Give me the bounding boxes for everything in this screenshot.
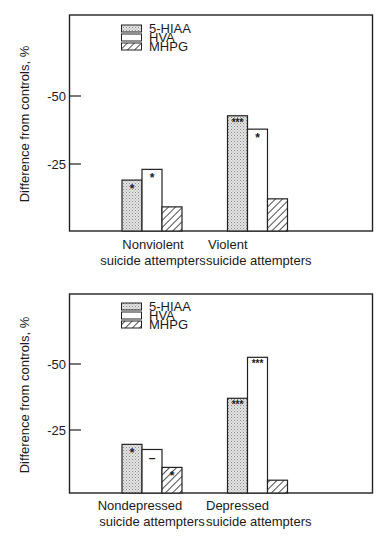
legend-label-mhpg: MHPG	[149, 317, 188, 332]
significance-marker: *	[170, 469, 175, 483]
chart-2-bars: *–*******	[122, 357, 288, 493]
bar-5hiaa	[228, 116, 248, 231]
chart-2-categories: Nondepressed suicide attempters Depresse…	[98, 498, 312, 529]
tick-label-minus-25: -25	[47, 157, 66, 172]
category-label-line1: Violent	[208, 237, 248, 252]
category-label-line1: Nonviolent	[122, 237, 184, 252]
category-label-line2: suicide attempters	[206, 253, 312, 268]
chart-2-legend: 5-HIAA HVA MHPG	[122, 299, 192, 332]
legend-swatch-5hiaa	[122, 25, 142, 32]
significance-marker: ***	[232, 399, 244, 410]
tick-label-minus-25: -25	[47, 423, 66, 438]
category-label-line2: suicide attempters	[99, 514, 205, 529]
legend-swatch-hva	[122, 34, 142, 41]
bar-mhpg	[162, 207, 182, 231]
chart-2-frame	[70, 294, 373, 493]
tick-label-minus-50: -50	[47, 357, 66, 372]
legend-swatch-mhpg	[122, 321, 142, 328]
chart-1-legend: 5-HIAA HVA MHPG	[122, 21, 192, 54]
legend-swatch-5hiaa	[122, 303, 142, 310]
legend-swatch-mhpg	[122, 43, 142, 50]
chart-1-bars: ******	[122, 116, 288, 231]
chart-2-ylabel: Difference from controls, %	[17, 316, 32, 473]
significance-marker: ***	[232, 117, 244, 128]
chart-2-yaxis: -50 -25	[47, 357, 81, 438]
chart-1-yaxis: -50 -25	[47, 89, 81, 172]
bar-hva	[248, 357, 268, 493]
chart-1-ylabel: Difference from controls, %	[17, 45, 32, 202]
bar-5hiaa	[228, 398, 248, 493]
legend-label-mhpg: MHPG	[149, 39, 188, 54]
category-label-line1: Depressed	[206, 498, 269, 513]
category-label-line1: Nondepressed	[98, 498, 183, 513]
significance-marker: ***	[252, 358, 264, 369]
category-label-line2: suicide attempters	[100, 253, 206, 268]
significance-marker: *	[130, 446, 135, 460]
chart-1-frame	[70, 15, 373, 231]
category-label-line2: suicide attempters	[206, 514, 312, 529]
bar-mhpg	[268, 199, 288, 231]
figure: Difference from controls, % -50 -25 5-HI…	[0, 0, 389, 539]
legend-swatch-hva	[122, 312, 142, 319]
significance-marker: –	[149, 451, 156, 465]
tick-label-minus-50: -50	[47, 89, 66, 104]
chart-1: Difference from controls, % -50 -25 5-HI…	[17, 15, 373, 268]
bar-mhpg	[268, 480, 288, 493]
chart-2: Difference from controls, % -50 -25 5-HI…	[17, 294, 373, 529]
significance-marker: *	[130, 182, 135, 196]
significance-marker: *	[150, 171, 155, 185]
chart-1-categories: Nonviolent suicide attempters Violent su…	[100, 237, 312, 268]
significance-marker: *	[255, 131, 260, 145]
